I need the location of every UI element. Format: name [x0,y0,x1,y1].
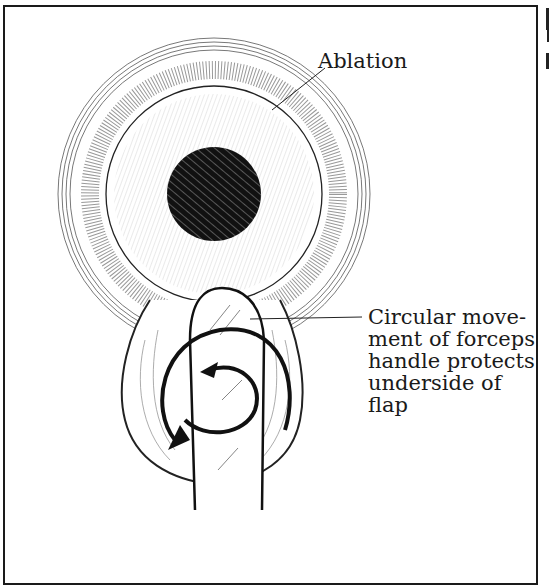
ablation-label: Ablation [318,50,407,72]
circular-movement-label: Circular move- ment of forceps handle pr… [368,306,548,416]
forceps-handle [190,288,264,510]
ablation-leader-line [272,68,325,110]
